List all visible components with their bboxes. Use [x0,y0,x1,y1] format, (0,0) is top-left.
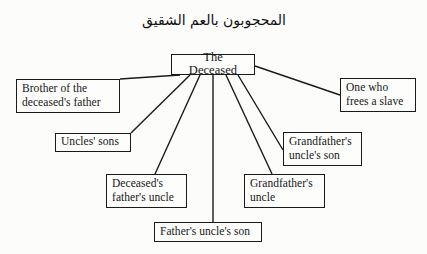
node-uncles-sons-label: Uncles' sons [61,135,125,149]
connector-uncles-sons [131,75,190,133]
node-fathers-uncles-son: Father's uncle's son [154,222,262,242]
exclusion-diagram: المحجوبون بالعم الشقيق The Deceased Brot… [0,0,427,254]
node-uncles-sons: Uncles' sons [55,133,131,152]
node-one-who-frees-a-slave: One who frees a slave [340,78,416,112]
node-one-who-frees-a-slave-label: One who frees a slave [346,81,410,108]
connector-grandfathers-uncles-son [238,75,283,150]
node-grandfathers-uncles-son: Grandfather's uncle's son [283,132,362,166]
connector-grandfathers-uncle [226,75,272,174]
connector-brother-of-deceaseds-father [120,75,180,79]
node-brother-of-deceaseds-father-label: Brother of the deceased's father [22,82,114,109]
diagram-caption-arabic: المحجوبون بالعم الشقيق [118,12,310,29]
connector-deceaseds-fathers-uncle [155,75,200,174]
node-grandfathers-uncles-son-label: Grandfather's uncle's son [289,135,356,162]
node-deceaseds-fathers-uncle: Deceased's father's uncle [106,174,187,208]
node-brother-of-deceaseds-father: Brother of the deceased's father [16,79,120,113]
node-grandfathers-uncle-label: Grandfather's uncle [250,177,319,204]
node-grandfathers-uncle: Grandfather's uncle [244,174,325,208]
diagram-connectors [0,0,427,254]
node-the-deceased-label: The Deceased [179,51,247,78]
node-the-deceased: The Deceased [171,54,255,75]
node-fathers-uncles-son-label: Father's uncle's son [160,225,256,239]
connector-one-who-frees-a-slave [255,66,340,95]
node-deceaseds-fathers-uncle-label: Deceased's father's uncle [112,177,181,204]
